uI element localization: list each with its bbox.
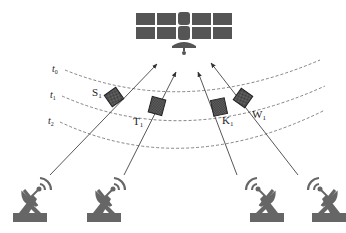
- signal-line-2: [124, 72, 176, 175]
- label-W1: W1: [252, 108, 266, 122]
- label-K1: K1: [222, 114, 234, 128]
- ground-station-3-icon: [246, 178, 284, 222]
- signal-line-1: [50, 64, 157, 175]
- object-W1: [233, 88, 252, 107]
- time-arcs: [60, 60, 325, 148]
- satellite-icon: [136, 12, 232, 55]
- object-S1: [104, 87, 123, 106]
- label-t0: t0: [52, 63, 58, 75]
- label-t2: t2: [48, 115, 54, 127]
- diagram-canvas: t0 t1 t2 S1 T1 K1 W1: [0, 0, 346, 233]
- ground-station-4-icon: [308, 178, 346, 222]
- label-S1: S1: [92, 86, 102, 100]
- ground-station-1-icon: [13, 178, 51, 222]
- arc-t2: [60, 110, 325, 148]
- object-T1: [148, 96, 166, 115]
- arc-t0: [65, 60, 320, 92]
- ground-station-2-icon: [87, 178, 125, 222]
- label-t1: t1: [50, 89, 56, 101]
- label-T1: T1: [133, 115, 144, 129]
